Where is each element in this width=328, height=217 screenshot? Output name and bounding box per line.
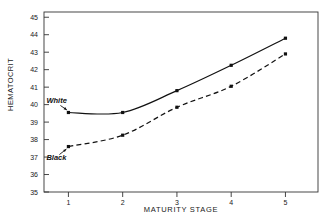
- data-point-marker: [284, 52, 287, 55]
- series-line-black: [68, 54, 285, 147]
- annotation-arrow: [60, 105, 67, 110]
- data-point-marker: [230, 64, 233, 67]
- data-point-marker: [67, 111, 70, 114]
- data-point-marker: [284, 37, 287, 40]
- y-axis-tick-marks: [44, 17, 49, 192]
- hematocrit-maturity-stage-chart: HEMATOCRIT MATURITY STAGE 45444342414039…: [0, 0, 328, 217]
- data-point-marker: [121, 134, 124, 137]
- data-point-marker: [175, 89, 178, 92]
- annotation-arrows: [59, 105, 67, 154]
- x-axis-tick-marks: [68, 192, 285, 197]
- plot-area: [0, 0, 328, 217]
- data-point-marker: [175, 106, 178, 109]
- data-point-marker: [230, 85, 233, 88]
- series-line-white: [68, 38, 285, 114]
- series-markers: [67, 37, 287, 149]
- data-point-marker: [67, 145, 70, 148]
- series-lines: [68, 38, 285, 146]
- data-point-marker: [121, 111, 124, 114]
- plot-frame: [44, 12, 318, 192]
- annotation-arrow: [59, 149, 66, 155]
